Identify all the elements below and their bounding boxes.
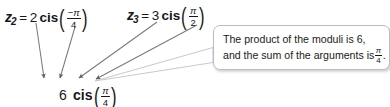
callout-period: . <box>383 48 386 60</box>
product-function: cis <box>73 87 93 103</box>
arrow-from-z2-modulus <box>36 23 44 78</box>
callout-line-1: The product of the moduli is 6, <box>223 32 384 47</box>
z2-function: cis <box>39 10 58 25</box>
product-denominator: 4 <box>102 98 109 107</box>
z2-argument: (−π4) <box>58 8 89 29</box>
callout-denominator: 4 <box>375 57 381 65</box>
callout-fraction: π4 <box>375 47 382 65</box>
z2-modulus: 2 <box>30 10 38 25</box>
z3-subscript: 3 <box>133 14 139 25</box>
callout-box: The product of the moduli is 6, and the … <box>213 25 390 70</box>
z2-equals: = <box>19 10 27 25</box>
callout-pointer-tail <box>95 48 213 82</box>
z2-fraction: −π4 <box>67 8 81 29</box>
z2-numerator: −π <box>67 8 81 18</box>
z3-equals: = <box>141 8 149 23</box>
z2-denominator: 4 <box>70 20 77 30</box>
callout-numerator: π <box>375 47 382 55</box>
product-argument: (π4) <box>93 86 119 107</box>
z3-numerator: π <box>189 6 197 16</box>
z3-modulus: 3 <box>152 8 160 23</box>
expression-z3: z3=3cis(π2) <box>127 6 206 27</box>
z2-subscript: 2 <box>11 16 17 27</box>
z3-argument: (π2) <box>180 6 206 27</box>
z3-denominator: 2 <box>190 18 197 28</box>
arrow-from-z2-argument <box>60 27 75 78</box>
z3-fraction: π2 <box>189 6 198 27</box>
callout-line-2-text: and the sum of the arguments is <box>223 48 374 60</box>
expression-z2: z2=2cis(−π4) <box>5 8 89 29</box>
z3-function: cis <box>161 8 180 23</box>
product-fraction: π4 <box>101 86 110 107</box>
expression-product: 6 cis(π4) <box>59 86 118 107</box>
figure-canvas: #ffffff z2=2cis(−π4) z3=3cis(π2) 6 cis(π… <box>0 0 390 107</box>
product-modulus: 6 <box>59 87 67 103</box>
callout-line-2: and the sum of the arguments isπ4. <box>223 47 384 65</box>
product-numerator: π <box>101 86 109 96</box>
